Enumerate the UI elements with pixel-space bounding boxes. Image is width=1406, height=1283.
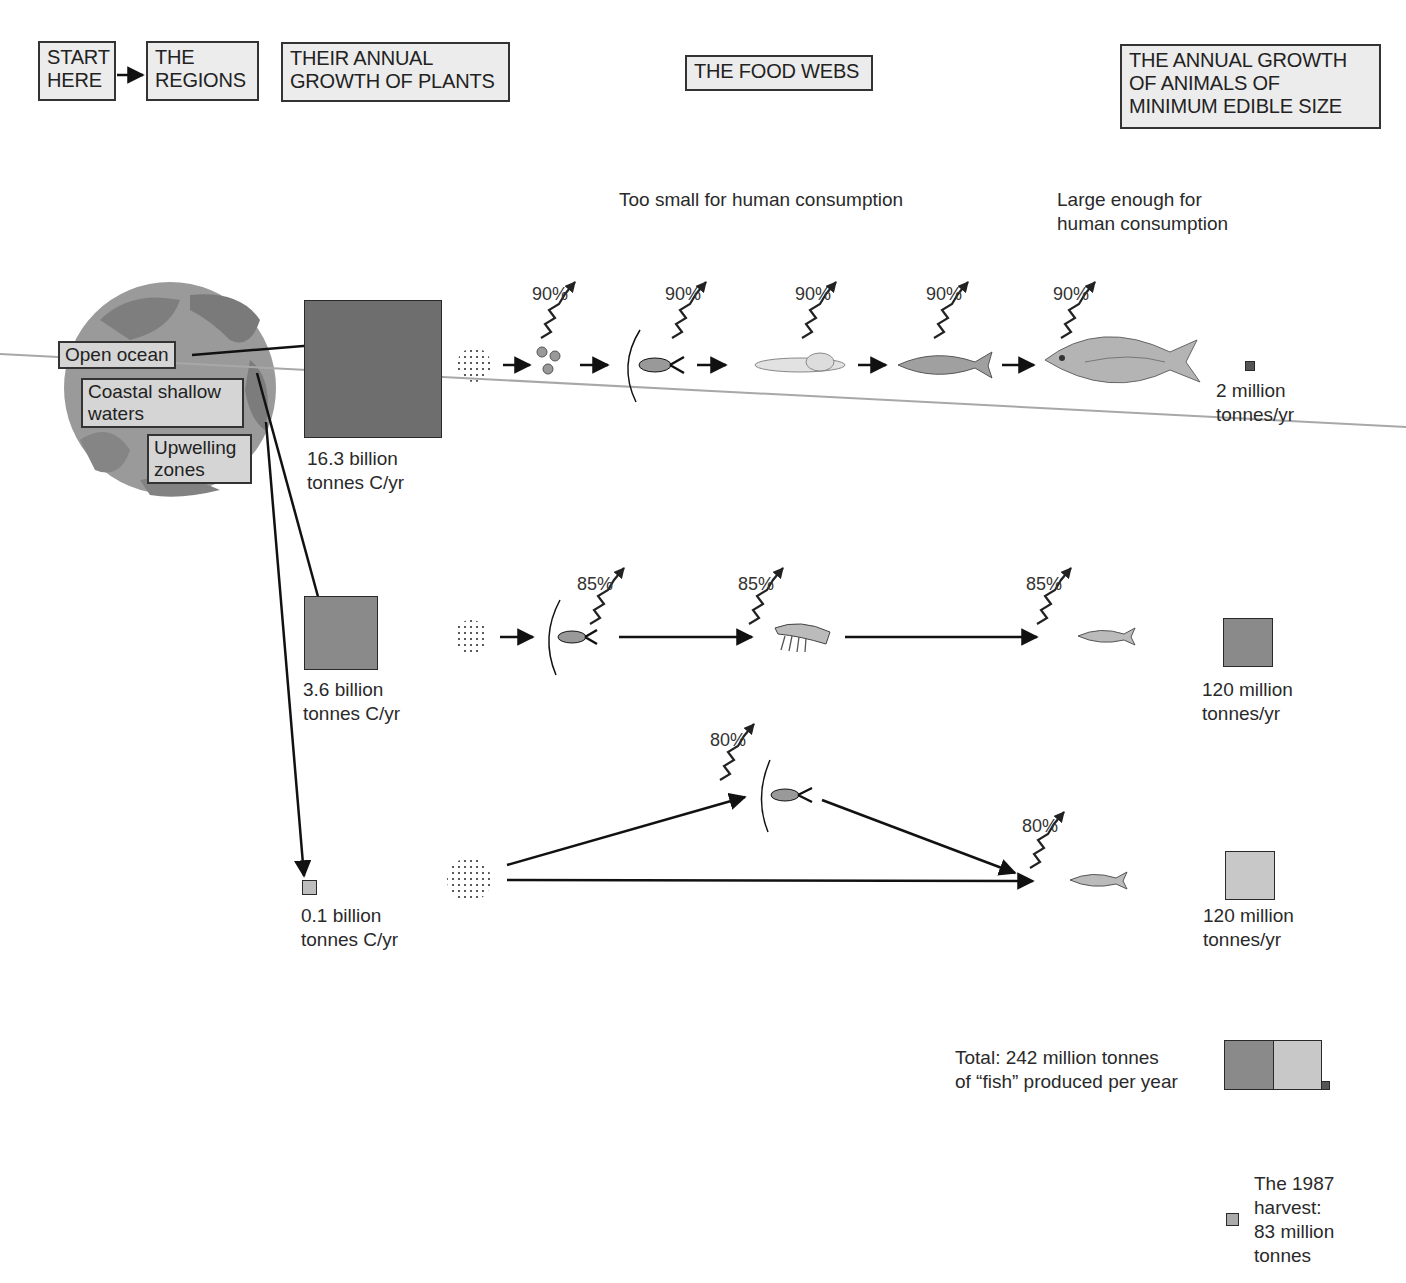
loss-pct: 90% <box>1053 284 1089 305</box>
animal-output-square-upwelling <box>1225 851 1275 900</box>
loss-pct: 85% <box>738 574 774 595</box>
loss-pct: 90% <box>926 284 962 305</box>
animal-output-square-open-ocean <box>1245 361 1255 371</box>
loss-pct: 80% <box>710 730 746 751</box>
plant-growth-square-open-ocean <box>304 300 442 438</box>
region-label-upwelling: Upwelling zones <box>147 434 252 484</box>
animal-output-open-ocean: 2 million tonnes/yr <box>1216 379 1294 427</box>
diagram-graphics <box>0 0 1406 1283</box>
animal-output-upwelling: 120 million tonnes/yr <box>1203 904 1294 952</box>
region-label-open-ocean: Open ocean <box>58 341 176 369</box>
plant-growth-open-ocean: 16.3 billion tonnes C/yr <box>307 447 404 495</box>
plant-growth-upwelling: 0.1 billion tonnes C/yr <box>301 904 398 952</box>
animal-output-coastal: 120 million tonnes/yr <box>1202 678 1293 726</box>
loss-pct: 90% <box>532 284 568 305</box>
copepod-icon <box>628 330 684 402</box>
loss-pct: 90% <box>795 284 831 305</box>
tuna-icon <box>1045 337 1200 383</box>
total-label: Total: 242 million tonnes of “fish” prod… <box>955 1046 1178 1094</box>
total-square-upwelling <box>1273 1040 1322 1090</box>
copepod-icon <box>549 600 597 675</box>
plant-growth-square-coastal <box>304 596 378 670</box>
small-fish-icon <box>898 352 992 378</box>
loss-pct: 80% <box>1022 816 1058 837</box>
loss-pct: 85% <box>1026 574 1062 595</box>
plant-growth-square-upwelling <box>302 880 317 895</box>
harvest-label: The 1987 harvest: 83 million tonnes <box>1254 1172 1334 1268</box>
region-label-coastal: Coastal shallow waters <box>81 378 244 428</box>
anchovy-icon <box>1078 628 1135 645</box>
plant-growth-coastal: 3.6 billion tonnes C/yr <box>303 678 400 726</box>
total-square-open-ocean <box>1321 1081 1330 1090</box>
total-square-coastal <box>1224 1040 1274 1090</box>
loss-pct: 85% <box>577 574 613 595</box>
copepod-icon <box>761 760 812 832</box>
harvest-square <box>1226 1213 1239 1226</box>
animal-output-square-coastal <box>1223 618 1273 667</box>
larval-fish-icon <box>755 353 845 372</box>
loss-pct: 90% <box>665 284 701 305</box>
shrimp-icon <box>775 624 830 652</box>
anchovy-icon <box>1070 872 1127 889</box>
